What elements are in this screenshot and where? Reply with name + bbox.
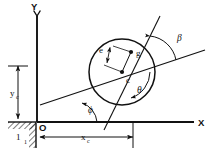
origin-label: O <box>39 122 46 133</box>
phi-angle-label: ϕ <box>88 105 93 115</box>
y-axis-label: Y <box>31 1 38 12</box>
wall-support-label: 1 <box>24 139 27 145</box>
dimension-xc-label: x <box>81 132 86 142</box>
beta-angle-label: β <box>176 33 182 43</box>
dimension-xc-subscript: c <box>87 138 90 144</box>
dimension-yc-subscript: c <box>16 94 19 100</box>
point-g-label: g <box>136 48 141 58</box>
ground-support-label: 1 <box>16 132 21 142</box>
dimension-e-label: e <box>99 45 103 55</box>
point-c-label: c <box>126 75 130 85</box>
theta-angle-label: θ <box>137 85 142 95</box>
dimension-yc-label: y <box>10 88 15 98</box>
x-axis-label: X <box>198 117 205 128</box>
label-layer: Y X O c g e β θ ϕ x c y c 1 1 <box>0 0 214 151</box>
technical-diagram: Y X O c g e β θ ϕ x c y c 1 1 <box>0 0 214 151</box>
